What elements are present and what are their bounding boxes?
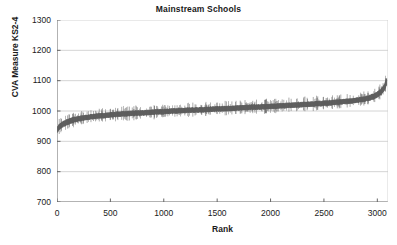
- x-tick-label: 1500: [197, 208, 237, 218]
- data-series-band: [57, 76, 387, 134]
- plot-area: [57, 20, 388, 202]
- x-tick-label: 0: [37, 208, 77, 218]
- y-tick-label: 1300: [15, 15, 51, 25]
- y-tick-label: 700: [15, 197, 51, 207]
- y-tick-label: 1000: [15, 106, 51, 116]
- x-tick-label: 2500: [304, 208, 344, 218]
- y-tick-label: 1100: [15, 75, 51, 85]
- y-tick-label: 1200: [15, 45, 51, 55]
- x-tick-label: 3000: [357, 208, 397, 218]
- y-tick-label: 800: [15, 166, 51, 176]
- chart-figure: Mainstream Schools CVA Measure KS2-4 700…: [0, 0, 397, 245]
- plot-svg: [57, 20, 388, 202]
- x-tick-label: 2000: [251, 208, 291, 218]
- x-tick-label: 1000: [144, 208, 184, 218]
- x-axis-title: Rank: [57, 224, 388, 234]
- y-tick-label: 900: [15, 136, 51, 146]
- x-tick-label: 500: [90, 208, 130, 218]
- chart-title: Mainstream Schools: [0, 4, 397, 14]
